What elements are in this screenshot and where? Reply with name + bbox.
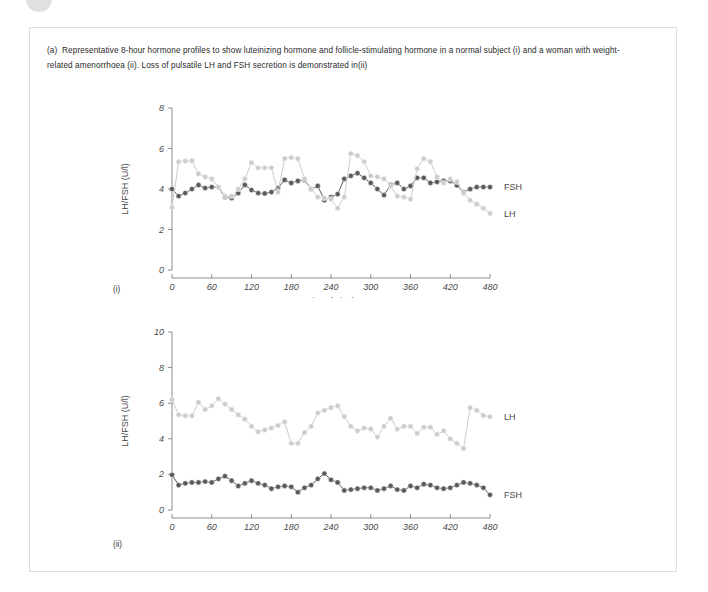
x-tick-label: 240 xyxy=(322,522,338,532)
data-point xyxy=(322,196,327,201)
y-tick-label: 10 xyxy=(154,327,164,337)
data-point xyxy=(295,156,300,161)
data-point xyxy=(203,185,208,190)
data-point xyxy=(309,186,314,191)
data-point xyxy=(176,193,181,198)
data-point xyxy=(169,186,174,191)
data-point xyxy=(183,481,188,486)
data-point xyxy=(203,407,208,412)
data-point xyxy=(461,190,466,195)
data-point xyxy=(448,485,453,490)
data-point xyxy=(196,400,201,405)
series-label-fsh: FSH xyxy=(504,490,522,500)
data-point xyxy=(487,184,492,189)
data-point xyxy=(481,184,486,189)
data-point xyxy=(342,176,347,181)
data-point xyxy=(189,186,194,191)
figure-caption-text: Representative 8-hour hormone profiles t… xyxy=(47,46,620,70)
data-point xyxy=(328,405,333,410)
data-point xyxy=(269,165,274,170)
data-point xyxy=(481,206,486,211)
data-point xyxy=(176,159,181,164)
x-tick-label: 240 xyxy=(322,282,338,292)
y-tick-label: 0 xyxy=(159,265,164,275)
data-point xyxy=(415,431,420,436)
x-tick-label: 480 xyxy=(482,282,497,292)
data-point xyxy=(295,490,300,495)
data-point xyxy=(395,426,400,431)
data-point xyxy=(335,480,340,485)
data-point xyxy=(256,429,261,434)
panel-label-ii: (ii) xyxy=(113,540,122,549)
x-tick-label: 480 xyxy=(482,522,497,532)
data-point xyxy=(169,472,174,477)
data-point xyxy=(362,159,367,164)
data-point xyxy=(302,485,307,490)
data-point xyxy=(242,481,247,486)
data-point xyxy=(282,156,287,161)
data-point xyxy=(203,174,208,179)
y-tick-label: 8 xyxy=(159,103,164,113)
data-point xyxy=(322,471,327,476)
y-tick-label: 8 xyxy=(159,363,164,373)
data-point xyxy=(388,183,393,188)
data-point xyxy=(487,211,492,216)
data-point xyxy=(203,479,208,484)
data-point xyxy=(487,414,492,419)
data-point xyxy=(415,166,420,171)
x-tick-label: 0 xyxy=(169,282,174,292)
data-point xyxy=(368,180,373,185)
data-point xyxy=(229,407,234,412)
data-point xyxy=(236,412,241,417)
data-point xyxy=(454,482,459,487)
data-point xyxy=(468,186,473,191)
data-point xyxy=(428,482,433,487)
data-point xyxy=(249,424,254,429)
data-point xyxy=(335,191,340,196)
data-point xyxy=(441,486,446,491)
data-point xyxy=(249,187,254,192)
data-point xyxy=(487,492,492,497)
data-point xyxy=(395,180,400,185)
data-point xyxy=(401,488,406,493)
x-tick-label: 360 xyxy=(403,282,418,292)
data-point xyxy=(348,424,353,429)
data-point xyxy=(309,424,314,429)
data-point xyxy=(381,486,386,491)
data-point xyxy=(362,426,367,431)
data-point xyxy=(362,485,367,490)
data-point xyxy=(434,174,439,179)
data-point xyxy=(209,403,214,408)
data-point xyxy=(342,414,347,419)
data-point xyxy=(434,485,439,490)
data-point xyxy=(256,481,261,486)
data-point xyxy=(375,488,380,493)
data-point xyxy=(322,408,327,413)
data-point xyxy=(342,195,347,200)
data-point xyxy=(355,171,360,176)
data-point xyxy=(209,176,214,181)
series-lh xyxy=(169,151,492,216)
data-point xyxy=(448,176,453,181)
data-point xyxy=(355,153,360,158)
data-point xyxy=(474,408,479,413)
data-point xyxy=(242,176,247,181)
x-tick-label: 420 xyxy=(443,282,458,292)
data-point xyxy=(401,186,406,191)
data-point xyxy=(256,165,261,170)
data-point xyxy=(269,189,274,194)
data-point xyxy=(289,484,294,489)
data-point xyxy=(375,434,380,439)
x-tick-label: 300 xyxy=(363,282,378,292)
data-point xyxy=(461,480,466,485)
data-point xyxy=(474,482,479,487)
data-point xyxy=(196,480,201,485)
data-point xyxy=(289,180,294,185)
data-point xyxy=(454,441,459,446)
chart-svg-ii: 0246810060120180240300360420480Time (min… xyxy=(110,322,530,537)
data-point xyxy=(335,206,340,211)
data-point xyxy=(401,195,406,200)
data-point xyxy=(375,186,380,191)
data-point xyxy=(395,193,400,198)
data-point xyxy=(415,485,420,490)
